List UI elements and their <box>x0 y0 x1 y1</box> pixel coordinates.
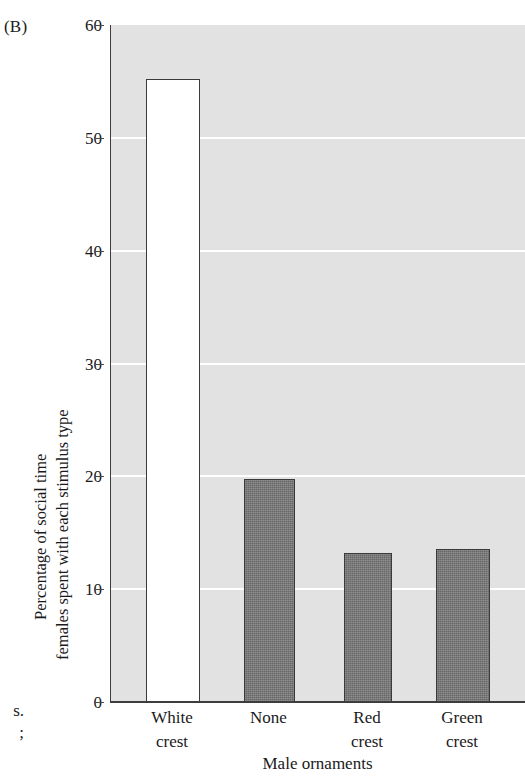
x-axis-tick-label-line: White <box>117 706 227 730</box>
y-axis-tick-mark <box>96 364 104 365</box>
x-axis-tick-label: Redcrest <box>312 706 422 754</box>
bar <box>244 479 295 702</box>
bar <box>436 549 490 702</box>
x-axis-tick-label-line: crest <box>407 730 517 754</box>
caption-bleed-line-2: ; <box>0 722 24 744</box>
y-axis-tick-mark <box>96 25 104 26</box>
y-axis-tick-mark <box>96 251 104 252</box>
bar <box>146 79 200 702</box>
bar <box>344 553 392 702</box>
plot-area <box>110 25 525 702</box>
y-axis-tick-mark <box>96 702 104 703</box>
x-axis-tick-label-line: Green <box>407 706 517 730</box>
x-axis-line <box>110 701 525 703</box>
caption-bleed-line-1: s. <box>0 700 24 722</box>
y-axis-title-line-1: Percentage of social time <box>33 454 50 620</box>
y-axis-tick-mark <box>96 589 104 590</box>
x-axis-tick-label-line: crest <box>117 730 227 754</box>
x-axis-tick-label: Greencrest <box>407 706 517 754</box>
y-axis-tick-labels: 0102030405060 <box>60 0 102 782</box>
x-axis-title: Male ornaments <box>110 755 525 772</box>
x-axis-tick-label: None <box>214 706 324 730</box>
x-axis-tick-label-line: None <box>214 706 324 730</box>
y-axis-tick-mark <box>96 138 104 139</box>
x-axis-tick-label: Whitecrest <box>117 706 227 754</box>
y-axis-tick-mark <box>96 476 104 477</box>
panel-label: (B) <box>4 18 27 35</box>
x-axis-tick-label-line: crest <box>312 730 422 754</box>
x-axis-tick-label-line: Red <box>312 706 422 730</box>
caption-bleed-text: s. ; <box>0 700 26 744</box>
